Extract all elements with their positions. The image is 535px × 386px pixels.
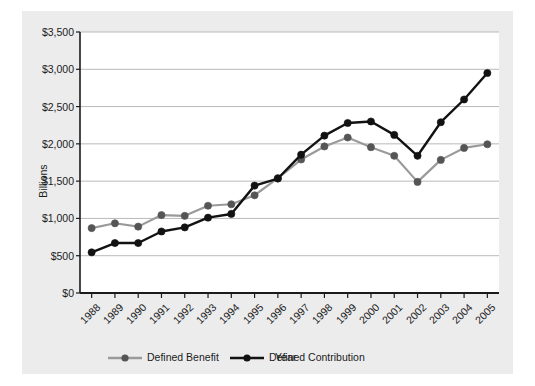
y-tick-label: $2,000 <box>26 138 74 150</box>
data-point <box>251 192 258 199</box>
data-point <box>88 249 95 256</box>
y-tick-label: $1,000 <box>26 212 74 224</box>
data-point <box>111 220 118 227</box>
y-tick-label: $3,000 <box>26 63 74 75</box>
data-point <box>158 228 165 235</box>
y-tick-label: $0 <box>26 287 74 299</box>
y-tick-label: $1,500 <box>26 175 74 187</box>
legend-marker-defined-benefit <box>108 351 142 365</box>
data-point <box>228 201 235 208</box>
data-point <box>88 225 95 232</box>
data-point <box>204 214 211 221</box>
legend-marker-defined-contribution <box>230 351 264 365</box>
y-tick-label: $2,500 <box>26 101 74 113</box>
y-tick-label: $3,500 <box>26 26 74 38</box>
data-point <box>367 144 374 151</box>
legend-label-defined-benefit: Defined Benefit <box>147 351 219 363</box>
data-point <box>204 202 211 209</box>
data-point <box>111 239 118 246</box>
data-point <box>391 131 398 138</box>
data-point <box>344 134 351 141</box>
data-point <box>414 178 421 185</box>
data-point <box>367 118 374 125</box>
data-point <box>414 152 421 159</box>
data-point <box>344 119 351 126</box>
data-point <box>460 96 467 103</box>
data-point <box>135 223 142 230</box>
data-point <box>484 141 491 148</box>
y-axis-title: Billions <box>37 151 49 211</box>
data-point <box>158 211 165 218</box>
data-point <box>321 132 328 139</box>
data-point <box>391 152 398 159</box>
data-point <box>251 182 258 189</box>
data-point <box>274 175 281 182</box>
legend-label-defined-contribution: Defined Contribution <box>269 351 365 363</box>
data-point <box>298 151 305 158</box>
data-point <box>460 144 467 151</box>
line-chart-figure: $0$500$1,000$1,500$2,000$2,500$3,000$3,5… <box>0 0 535 386</box>
data-point <box>228 210 235 217</box>
data-point <box>321 143 328 150</box>
data-point <box>181 224 188 231</box>
data-point <box>181 212 188 219</box>
y-tick-label: $500 <box>26 250 74 262</box>
data-point <box>135 239 142 246</box>
data-point <box>437 156 444 163</box>
data-point <box>484 69 491 76</box>
data-point <box>437 119 444 126</box>
